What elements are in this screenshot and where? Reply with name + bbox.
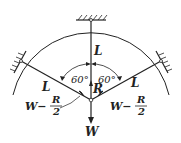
label-tension-left-frac-den: 2 [52,106,60,117]
label-tension-right-frac-den: 2 [137,106,145,117]
label-tension-left: W− [25,100,47,113]
leader-line [60,96,80,108]
label-reaction: R [92,82,103,96]
label-weight: W [85,125,100,139]
label-angle-left: 60° [71,74,89,85]
label-tension-right: W− [110,100,132,113]
label-tension-left-frac-num: R [51,94,60,105]
label-length-top: L [93,44,102,58]
arrow-W [88,117,94,124]
label-length-right: L [130,76,139,90]
label-length-left: L [41,80,50,94]
force-diagram: L L L 60° 60° R W W− R 2 W− R 2 [0,0,181,143]
label-tension-right-frac-num: R [136,94,145,105]
center-node [89,98,93,102]
